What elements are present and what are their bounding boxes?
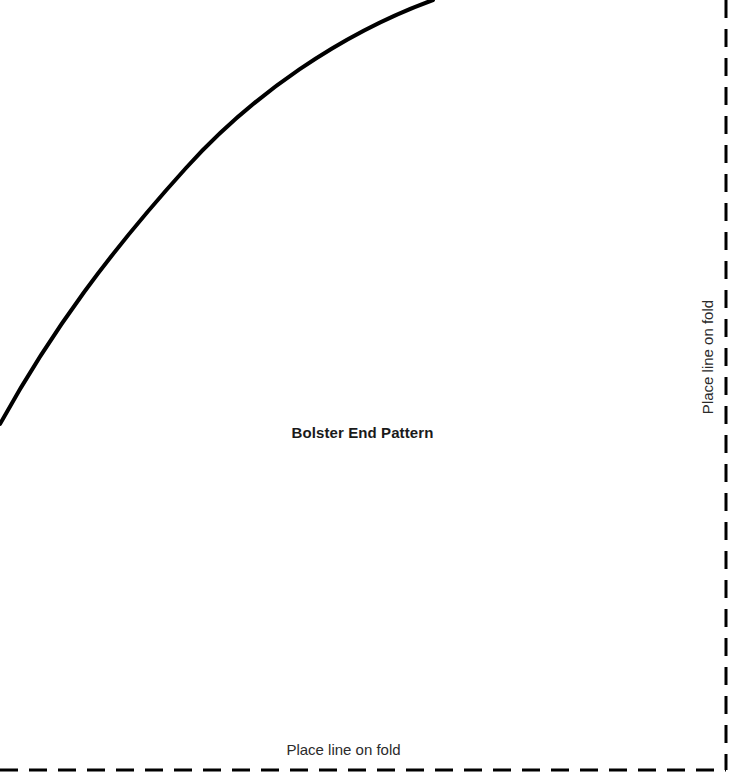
pattern-drawing-canvas [0,0,739,779]
bolster-end-pattern-sheet: Bolster End Pattern Place line on fold P… [0,0,739,779]
sheet-background [0,0,739,779]
